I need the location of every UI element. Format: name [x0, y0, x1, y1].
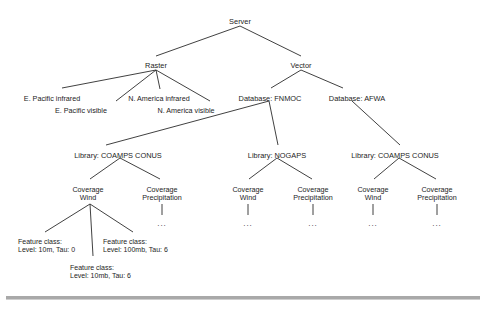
node-coverage-name: Precipitation: [293, 194, 333, 202]
tree-edge: [352, 101, 400, 145]
node-ellipsis: ...: [308, 219, 317, 228]
node-raster-child-label: N. America infrared: [128, 95, 190, 103]
node-coverage: Coverage Precipitation: [142, 186, 182, 202]
node-library: Library: COAMPS CONUS: [351, 152, 438, 160]
node-database-label: Database: FNMOC: [239, 95, 302, 103]
tree-edge: [156, 70, 160, 89]
tree-edge: [271, 70, 301, 88]
node-database: Database: AFWA: [329, 95, 385, 103]
node-feature-class-kind: Feature class:: [18, 238, 75, 246]
tree-edge: [62, 70, 156, 88]
tree-edge: [90, 204, 93, 256]
tree-edge: [90, 158, 120, 179]
node-coverage-name: Wind: [232, 194, 263, 202]
node-feature-class: Feature class: Level: 100mb, Tau: 6: [103, 238, 168, 254]
node-server: Server: [229, 18, 251, 26]
node-raster-child: E. Pacific visible: [55, 107, 107, 115]
node-raster-child-label: N. America visible: [157, 107, 214, 115]
node-feature-class-kind: Feature class:: [70, 264, 131, 272]
node-coverage-name: Precipitation: [142, 194, 182, 202]
node-coverage-name: Precipitation: [417, 194, 457, 202]
node-feature-class-kind: Feature class:: [103, 238, 168, 246]
tree-edge: [269, 101, 278, 145]
node-raster: Raster: [145, 62, 167, 70]
node-raster-child: N. America visible: [157, 107, 214, 115]
diagram-canvas: Server Raster Vector E. Pacific infrared…: [0, 0, 486, 309]
node-library: Library: COAMPS CONUS: [74, 152, 161, 160]
node-raster-child: N. America infrared: [128, 95, 190, 103]
node-coverage-name: Wind: [357, 194, 388, 202]
tree-edge: [374, 158, 399, 179]
tree-edge: [156, 26, 240, 56]
node-ellipsis: ...: [368, 219, 377, 228]
node-library-label: Library: COAMPS CONUS: [351, 152, 438, 160]
node-ellipsis: ...: [243, 219, 252, 228]
node-library-label: Library: COAMPS CONUS: [74, 152, 161, 160]
tree-edge: [249, 158, 277, 179]
tree-edge: [120, 158, 160, 179]
node-raster-label: Raster: [145, 62, 167, 70]
node-database-label: Database: AFWA: [329, 95, 385, 103]
node-coverage: Coverage Wind: [232, 186, 263, 202]
node-coverage: Coverage Precipitation: [417, 186, 457, 202]
node-feature-class: Feature class: Level: 10m, Tau: 0: [18, 238, 75, 254]
tree-edge: [399, 158, 436, 179]
node-feature-class-detail: Level: 10m, Tau: 0: [18, 246, 75, 254]
tree-edge: [301, 70, 343, 88]
node-vector-label: Vector: [291, 62, 312, 70]
node-ellipsis: ...: [157, 219, 166, 228]
node-coverage: Coverage Precipitation: [293, 186, 333, 202]
node-feature-class: Feature class: Level: 10mb, Tau: 6: [70, 264, 131, 280]
node-vector: Vector: [291, 62, 312, 70]
node-server-label: Server: [229, 18, 251, 26]
tree-edge: [277, 158, 312, 179]
node-coverage: Coverage Wind: [357, 186, 388, 202]
node-raster-child-label: E. Pacific infrared: [24, 95, 80, 103]
node-database: Database: FNMOC: [239, 95, 302, 103]
page-footer-rule-shadow: [6, 299, 480, 300]
tree-edge: [90, 204, 133, 232]
node-feature-class-detail: Level: 100mb, Tau: 6: [103, 246, 168, 254]
node-ellipsis: ...: [432, 219, 441, 228]
node-raster-child-label: E. Pacific visible: [55, 107, 107, 115]
node-coverage-name: Wind: [72, 194, 103, 202]
node-raster-child: E. Pacific infrared: [24, 95, 80, 103]
tree-edge: [240, 26, 301, 56]
node-feature-class-detail: Level: 10mb, Tau: 6: [70, 272, 131, 280]
node-library: Library: NOGAPS: [248, 152, 306, 160]
node-library-label: Library: NOGAPS: [248, 152, 306, 160]
tree-edge: [45, 204, 90, 232]
node-coverage: Coverage Wind: [72, 186, 103, 202]
